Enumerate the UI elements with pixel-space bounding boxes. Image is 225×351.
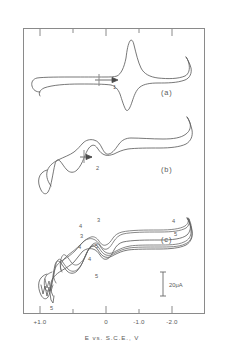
plot-frame — [24, 29, 205, 314]
figure-container: 1 (a) 2 (b) 3 4 3 4 5 4 5 4 5 5 (c) — [0, 0, 225, 351]
tick-label-minus-2: -2.0 — [166, 318, 178, 325]
panel-label-a: (a) — [161, 88, 173, 97]
peak-label-5-right: 5 — [174, 231, 177, 237]
tick-label-minus-1: -1.0 — [133, 318, 145, 325]
peak-label-4-upper: 4 — [79, 223, 82, 229]
panel-a-trace — [32, 40, 192, 110]
peak-label-3-mid: 3 — [80, 233, 83, 239]
scale-bar-label: 20μA — [169, 282, 183, 288]
peak-label-3-top: 3 — [97, 217, 100, 223]
panel-b-trace — [39, 117, 193, 194]
x-axis-label: E vs. S.C.E., V — [85, 334, 139, 341]
peak-label-5-upper: 5 — [95, 243, 98, 249]
peak-label-5-bottom: 5 — [50, 305, 53, 311]
peak-label-4-mid: 4 — [78, 244, 81, 250]
panel-label-b: (b) — [161, 165, 173, 174]
peak-label-5-mid: 5 — [95, 273, 98, 279]
peak-label-1: 1 — [113, 84, 116, 90]
top-tick-marks — [40, 29, 172, 37]
tick-label-plus-1: +1.0 — [33, 318, 46, 325]
peak-label-4-right: 4 — [172, 218, 175, 224]
peak-label-4-lower: 4 — [88, 256, 91, 262]
voltammogram-svg: 1 (a) 2 (b) 3 4 3 4 5 4 5 4 5 5 (c) — [0, 0, 225, 351]
peak-label-2: 2 — [96, 165, 99, 171]
tick-label-zero: 0 — [104, 318, 108, 325]
panel-label-c: (c) — [161, 235, 172, 244]
current-scale-bar — [160, 272, 166, 296]
panel-b-direction-arrow — [80, 150, 92, 163]
bottom-tick-marks — [40, 306, 172, 314]
